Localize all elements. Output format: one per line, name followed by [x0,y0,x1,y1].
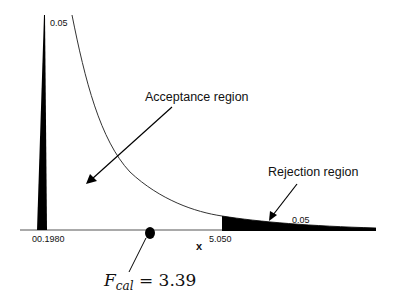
fcal-leader-line [129,238,146,272]
fcal-value: = 3.39 [139,270,197,290]
rejection-arrow [273,184,297,215]
rejection-arrowhead [269,211,277,221]
right-critical-value: 5.050 [209,234,232,244]
fcal-label: Fcal = 3.39 [104,270,196,293]
acceptance-region-label: Acceptance region [145,90,249,104]
left-critical-value: 00.1980 [32,234,65,244]
rejection-region-label: Rejection region [268,165,358,179]
left-tail-probability: 0.05 [50,18,68,28]
fcal-symbol: F [104,270,116,290]
left-rejection-region [37,15,47,230]
f-distribution-diagram [0,0,393,305]
fcal-subscript: cal [116,279,134,293]
x-axis-label: x [196,240,202,252]
density-curve [72,15,376,228]
acceptance-arrow [92,107,172,179]
fcal-marker [145,227,155,239]
right-tail-probability: 0.05 [292,215,310,225]
